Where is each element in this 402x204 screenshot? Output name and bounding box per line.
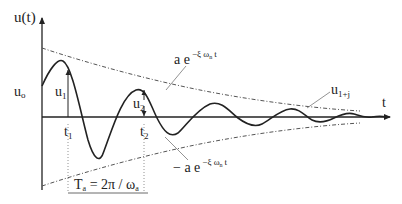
t1-label: t1 bbox=[64, 124, 72, 141]
lower-envelope-leader bbox=[165, 137, 188, 160]
u1j-label: u1+j bbox=[331, 82, 350, 99]
x-axis-label: t bbox=[382, 95, 386, 110]
t2-label: t2 bbox=[140, 124, 148, 141]
u1j-leader bbox=[307, 92, 330, 108]
lower-envelope-label: − a e−ξ ωnt bbox=[173, 157, 228, 175]
u0-label: uo bbox=[14, 84, 26, 100]
period-label: Ta = 2π / ωa bbox=[74, 177, 139, 193]
u2-label: u2 bbox=[133, 96, 145, 113]
u1-label: u1 bbox=[55, 84, 67, 101]
y-axis-label: u(t) bbox=[14, 9, 36, 26]
upper-envelope-label: a e−ξ ωnt bbox=[174, 49, 217, 67]
damped-oscillation-diagram: u(t) t uo u1 u2 u1+j t1 t2 a e−ξ ωnt − a… bbox=[0, 0, 402, 204]
